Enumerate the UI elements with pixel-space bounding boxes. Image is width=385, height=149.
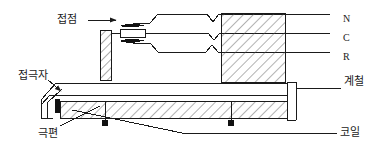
- label-pole-piece: 극편: [38, 128, 58, 139]
- contact-pad-lower: [119, 39, 144, 43]
- pole-piece-block: [55, 99, 60, 113]
- terminal-label-c: C: [343, 33, 350, 43]
- terminal-label-r: R: [343, 52, 350, 62]
- right-yoke-vertical-leg: [287, 82, 296, 120]
- label-yoke: 계철: [344, 76, 364, 87]
- hatched-core-block: [221, 13, 285, 82]
- terminal-label-n: N: [343, 14, 350, 24]
- hatched-vertical-post: [100, 30, 111, 80]
- label-armature: 접극자: [18, 70, 48, 81]
- contact-pad-upper: [119, 24, 144, 28]
- contact-card: [120, 29, 145, 37]
- label-coil: 코일: [340, 127, 360, 138]
- relay-cross-section-diagram: 접점 접극자 극편 계철 코일 N C R: [0, 0, 385, 149]
- label-contact: 접점: [57, 14, 77, 25]
